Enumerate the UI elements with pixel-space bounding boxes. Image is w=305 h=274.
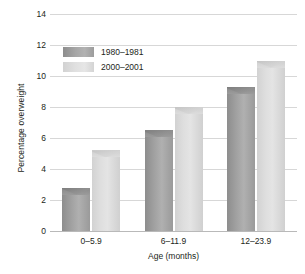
y-tick-label-4: 4 xyxy=(30,165,46,174)
bar-1980-1981-group-2 xyxy=(145,130,173,231)
legend-item-1980-1981: 1980–1981 xyxy=(63,45,183,58)
y-tick-label-8: 8 xyxy=(30,103,46,112)
y-tick-label-2: 2 xyxy=(30,196,46,205)
legend-label-1980-1981: 1980–1981 xyxy=(101,47,144,57)
gridline-0 xyxy=(50,231,297,232)
x-axis-tick-labels: 0–5.96–11.912–23.9 xyxy=(50,236,297,248)
bar-body xyxy=(257,68,285,232)
x-tick-label-3: 12–23.9 xyxy=(215,236,297,247)
bar-2000-2001-group-1 xyxy=(92,150,120,231)
bar-chart-figure: Percentage overweight 02468101214 1980–1… xyxy=(0,0,305,274)
legend-swatch-light-icon xyxy=(63,62,94,72)
gridline-14 xyxy=(50,14,297,15)
y-tick-label-0: 0 xyxy=(30,227,46,236)
y-tick-label-12: 12 xyxy=(30,41,46,50)
bar-body xyxy=(227,94,255,231)
bar-1980-1981-group-3 xyxy=(227,87,255,231)
bar-body xyxy=(62,195,90,231)
bar-2000-2001-group-2 xyxy=(175,107,203,231)
y-tick-label-6: 6 xyxy=(30,134,46,143)
y-tick-label-10: 10 xyxy=(30,72,46,81)
x-axis-title: Age (months) xyxy=(50,251,297,262)
legend-swatch-dark-icon xyxy=(63,47,94,57)
bar-2000-2001-group-3 xyxy=(257,61,285,232)
bar-body xyxy=(92,157,120,231)
y-axis-tick-labels: 02468101214 xyxy=(24,14,46,231)
x-tick-label-2: 6–11.9 xyxy=(132,236,214,247)
bar-1980-1981-group-1 xyxy=(62,188,90,231)
x-tick-label-1: 0–5.9 xyxy=(50,236,132,247)
legend-label-2000-2001: 2000–2001 xyxy=(101,62,144,72)
legend-item-2000-2001: 2000–2001 xyxy=(63,60,183,73)
bar-body xyxy=(175,114,203,231)
bar-body xyxy=(145,137,173,231)
chart-legend: 1980–1981 2000–2001 xyxy=(63,45,183,75)
y-tick-label-14: 14 xyxy=(30,10,46,19)
